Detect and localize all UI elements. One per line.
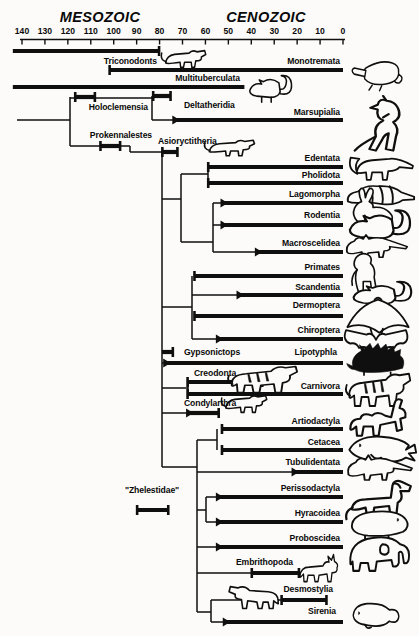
desmostylian-icon — [229, 587, 278, 609]
axis-tick-label: 40 — [247, 26, 257, 36]
hedgehog-icon — [347, 343, 404, 375]
multituberculate-icon-path — [262, 97, 272, 102]
holoclemensia-label: Holoclemensia — [89, 103, 148, 112]
tubulidentata-label: Tubulidentata — [286, 458, 340, 467]
triconodonts-label: Triconodonts — [104, 57, 157, 66]
elephant-shrew-icon-path — [347, 235, 407, 258]
lagomorpha-label: Lagomorpha — [289, 190, 340, 199]
anteater-icon-path — [357, 159, 413, 180]
dermoptera-label: Dermoptera — [293, 301, 340, 310]
multituberculata-label: Multituberculata — [175, 74, 240, 83]
multituberculate-icon — [250, 75, 292, 102]
hyrax-icon-path — [397, 519, 398, 522]
rodentia-label: Rodentia — [304, 211, 340, 220]
platypus-icon-path — [364, 62, 399, 85]
axis-tick-label: 10 — [315, 26, 325, 36]
whale-icon-path — [360, 444, 361, 447]
axis-tick-label: 80 — [155, 26, 165, 36]
axis-tick-label: 140 — [15, 26, 29, 36]
sirenia-label: Sirenia — [308, 607, 336, 616]
gypsonictops-label: Gypsonictops — [184, 348, 240, 357]
axis-tick-label: 90 — [132, 26, 142, 36]
arsinoitherium-icon-path — [300, 555, 338, 582]
gorilla-icon — [352, 254, 377, 292]
elephant-shrew-icon — [347, 235, 407, 258]
cetacea-label: Cetacea — [308, 438, 340, 447]
axis-tick-label: 20 — [292, 26, 302, 36]
edentata-label: Edentata — [305, 154, 341, 163]
zhelestidae-label: "Zhelestidae" — [125, 486, 179, 495]
scandentia-label: Scandentia — [295, 283, 340, 292]
triconodont-icon-path — [161, 53, 166, 61]
axis-tick-label: 110 — [84, 26, 98, 36]
hedgehog-icon-path — [352, 343, 404, 372]
anteater-icon — [350, 158, 413, 180]
axis-tick-label: 70 — [178, 26, 188, 36]
condylarthra-label: Condylarthra — [184, 399, 236, 408]
axis-tick-label: 130 — [38, 26, 52, 36]
colugo-icon — [347, 298, 408, 333]
axis-tick-label: 100 — [107, 26, 121, 36]
multituberculate-icon-path — [250, 80, 280, 98]
elephant-icon-path — [380, 544, 389, 554]
axis-tick-label: 30 — [269, 26, 279, 36]
elephant-icon — [350, 537, 409, 571]
mammal-phylogeny-figure: MESOZOIC CENOZOIC TriconodontsMonotremat… — [0, 0, 419, 636]
arsinoitherium-icon — [300, 555, 338, 582]
deltatheridia-label: Deltatheridia — [184, 101, 235, 110]
manatee-icon-path — [353, 604, 399, 627]
asioryctitheria-label: Asioryctitheria — [158, 137, 217, 146]
creodont-icon — [228, 366, 297, 392]
hyrax-icon — [352, 511, 408, 539]
desmostylia-label: Desmostylia — [283, 585, 333, 594]
elephant-icon-path — [350, 537, 409, 571]
primates-label: Primates — [304, 263, 340, 272]
monotremata-label: Monotremata — [287, 57, 340, 66]
carnivora-label: Carnivora — [301, 382, 340, 391]
kangaroo-icon — [355, 96, 400, 151]
manatee-icon — [353, 604, 399, 629]
triconodont-icon — [161, 51, 205, 68]
axis-tick-label: 120 — [61, 26, 75, 36]
kangaroo-icon-path — [369, 100, 399, 151]
embrithopoda-label: Embrithopoda — [236, 558, 293, 567]
colugo-icon-path — [347, 300, 408, 333]
proboscidea-label: Proboscidea — [290, 534, 340, 543]
gorilla-icon-path — [354, 254, 377, 292]
chiroptera-label: Chiroptera — [298, 326, 340, 335]
platypus-icon-path — [352, 68, 366, 77]
lipotyphla-label: Lipotyphla — [295, 348, 337, 357]
creodont-icon-path — [232, 366, 297, 392]
platypus-icon-path — [369, 85, 382, 91]
desmostylian-icon-path — [229, 587, 278, 609]
prokennalestes-label: Prokennalestes — [90, 131, 152, 140]
axis-tick-label: 0 — [341, 26, 346, 36]
pholidota-label: Pholidota — [302, 171, 340, 180]
axis-tick-label: 50 — [224, 26, 234, 36]
platypus-icon — [352, 62, 402, 91]
triconodont-icon-path — [166, 51, 206, 68]
creodonta-label: Creodonta — [194, 369, 236, 378]
hyrax-icon-path — [352, 511, 408, 536]
axis-tick-label: 60 — [201, 26, 211, 36]
marsupialia-label: Marsupialia — [294, 108, 340, 117]
macroscelidea-label: Macroscelidea — [282, 239, 340, 248]
perissodactyla-label: Perissodactyla — [281, 484, 340, 493]
artiodactyla-label: Artiodactyla — [292, 417, 340, 426]
manatee-icon-path — [359, 612, 360, 615]
hyracoidea-label: Hyracoidea — [295, 509, 340, 518]
phylogenetic-tree-canvas — [0, 0, 419, 636]
